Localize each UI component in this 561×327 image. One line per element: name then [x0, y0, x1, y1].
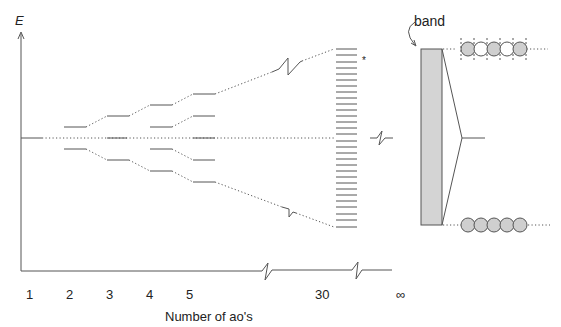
x-tick-5: 5 — [186, 287, 193, 302]
band-funnel — [442, 49, 462, 225]
energy-band-diagram — [0, 0, 561, 327]
x-tick-2: 2 — [66, 287, 73, 302]
middle-break — [370, 131, 393, 145]
x-tick-1: 1 — [26, 287, 33, 302]
x-axis — [21, 262, 392, 280]
band-label: band — [414, 13, 445, 29]
x-tick-30: 30 — [315, 287, 329, 302]
x-tick-infinity: ∞ — [396, 287, 405, 302]
star-marker: * — [362, 55, 366, 66]
band-rect — [421, 49, 442, 225]
x-tick-3: 3 — [106, 287, 113, 302]
bottom-break — [282, 207, 296, 217]
top-break — [272, 58, 302, 75]
x-axis-label: Number of ao's — [165, 309, 253, 324]
bottom-chain-circles — [461, 218, 527, 232]
n30-level-stack — [336, 49, 357, 227]
y-axis-label: E — [15, 13, 24, 28]
top-chain-circles — [461, 42, 527, 56]
x-tick-4: 4 — [146, 287, 153, 302]
